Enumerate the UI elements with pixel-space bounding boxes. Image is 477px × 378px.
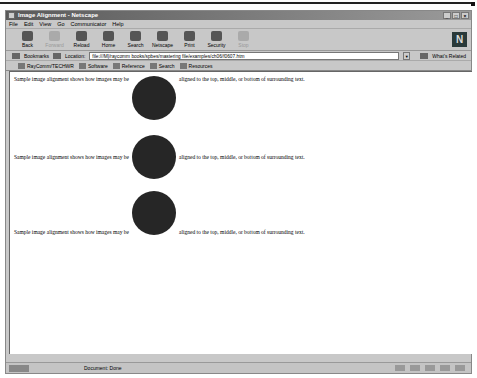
whats-related-icon <box>420 53 428 59</box>
row-text-after: aligned to the top, middle, or bottom of… <box>179 229 305 235</box>
minimize-button[interactable]: _ <box>443 12 451 19</box>
back-icon <box>22 31 33 41</box>
whats-related-button[interactable]: What's Related <box>432 53 466 59</box>
component-navigator-icon[interactable] <box>395 365 405 371</box>
component-address-icon[interactable] <box>440 365 450 371</box>
alignment-row-bottom: Sample image alignment shows how images … <box>14 191 305 235</box>
netscape-window-icon <box>8 12 15 19</box>
row-text-before: Sample image alignment shows how images … <box>14 229 129 235</box>
security-icon <box>211 31 222 41</box>
security-lock-icon[interactable] <box>9 365 29 372</box>
component-composer-icon[interactable] <box>455 365 465 371</box>
folder-icon <box>18 63 25 69</box>
personal-item-reference[interactable]: Reference <box>113 63 145 69</box>
search-icon <box>130 31 141 41</box>
alignment-row-top: Sample image alignment shows how images … <box>14 76 305 120</box>
url-input[interactable]: file:///M|/raycomm books/spbes/mastering… <box>89 52 399 60</box>
component-discussion-icon[interactable] <box>425 365 435 371</box>
alignment-row-middle: Sample image alignment shows how images … <box>14 135 305 179</box>
netscape-icon <box>157 31 168 41</box>
home-button[interactable]: Home <box>95 31 122 50</box>
folder-icon <box>113 63 120 69</box>
maximize-button[interactable]: □ <box>452 12 460 19</box>
component-mail-icon[interactable] <box>410 365 420 371</box>
forward-button[interactable]: Forward <box>41 31 68 50</box>
status-text: Document: Done <box>84 365 122 371</box>
reload-icon <box>76 31 87 41</box>
personal-item-software[interactable]: Software <box>79 63 108 69</box>
location-bar: Bookmarks Location: file:///M|/raycomm b… <box>6 51 471 61</box>
browser-window: Image Alignment - Netscape _ □ × File Ed… <box>5 10 472 374</box>
home-icon <box>103 31 114 41</box>
title-bar: Image Alignment - Netscape _ □ × <box>6 11 471 20</box>
netscape-logo[interactable]: N <box>452 32 467 47</box>
page-content: Sample image alignment shows how images … <box>9 71 472 354</box>
reload-button[interactable]: Reload <box>68 31 95 50</box>
menu-view[interactable]: View <box>39 20 51 28</box>
location-icon <box>53 53 61 59</box>
menu-help[interactable]: Help <box>112 20 123 28</box>
personal-item-resources[interactable]: Resources <box>180 63 213 69</box>
location-label: Location: <box>65 53 85 59</box>
menu-file[interactable]: File <box>9 20 18 28</box>
folder-icon <box>180 63 187 69</box>
corner-marker <box>471 2 475 6</box>
bookmarks-icon <box>12 53 20 59</box>
search-button[interactable]: Search <box>122 31 149 50</box>
status-bar: Document: Done <box>6 362 471 373</box>
top-border <box>0 2 475 4</box>
row-text-after: aligned to the top, middle, or bottom of… <box>179 76 305 82</box>
bookmarks-button[interactable]: Bookmarks <box>24 53 49 59</box>
netscape-button[interactable]: Netscape <box>149 31 176 50</box>
row-text-before: Sample image alignment shows how images … <box>14 154 129 160</box>
back-button[interactable]: Back <box>14 31 41 50</box>
stop-icon <box>238 31 249 41</box>
folder-icon <box>150 63 157 69</box>
stop-button[interactable]: Stop <box>230 31 257 50</box>
folder-icon <box>79 63 86 69</box>
row-text-before: Sample image alignment shows how images … <box>14 76 129 82</box>
personal-item-search[interactable]: Search <box>150 63 175 69</box>
personal-item-raycomm[interactable]: RayComm/TECHWR <box>18 63 74 69</box>
navigation-toolbar: Back Forward Reload Home Search Netscape… <box>6 29 471 51</box>
security-button[interactable]: Security <box>203 31 230 50</box>
print-button[interactable]: Print <box>176 31 203 50</box>
menu-communicator[interactable]: Communicator <box>71 20 107 28</box>
menu-edit[interactable]: Edit <box>24 20 33 28</box>
window-title: Image Alignment - Netscape <box>18 12 98 18</box>
close-button[interactable]: × <box>461 12 469 19</box>
circle-image <box>132 135 176 179</box>
print-icon <box>184 31 195 41</box>
forward-icon <box>49 31 60 41</box>
personal-toolbar: RayComm/TECHWR Software Reference Search… <box>6 61 471 71</box>
menu-go[interactable]: Go <box>57 20 64 28</box>
circle-image <box>132 76 176 120</box>
row-text-after: aligned to the top, middle, or bottom of… <box>179 154 305 160</box>
url-dropdown-button[interactable]: ▼ <box>403 52 410 60</box>
circle-image <box>132 191 176 235</box>
menu-bar: File Edit View Go Communicator Help <box>6 20 471 29</box>
